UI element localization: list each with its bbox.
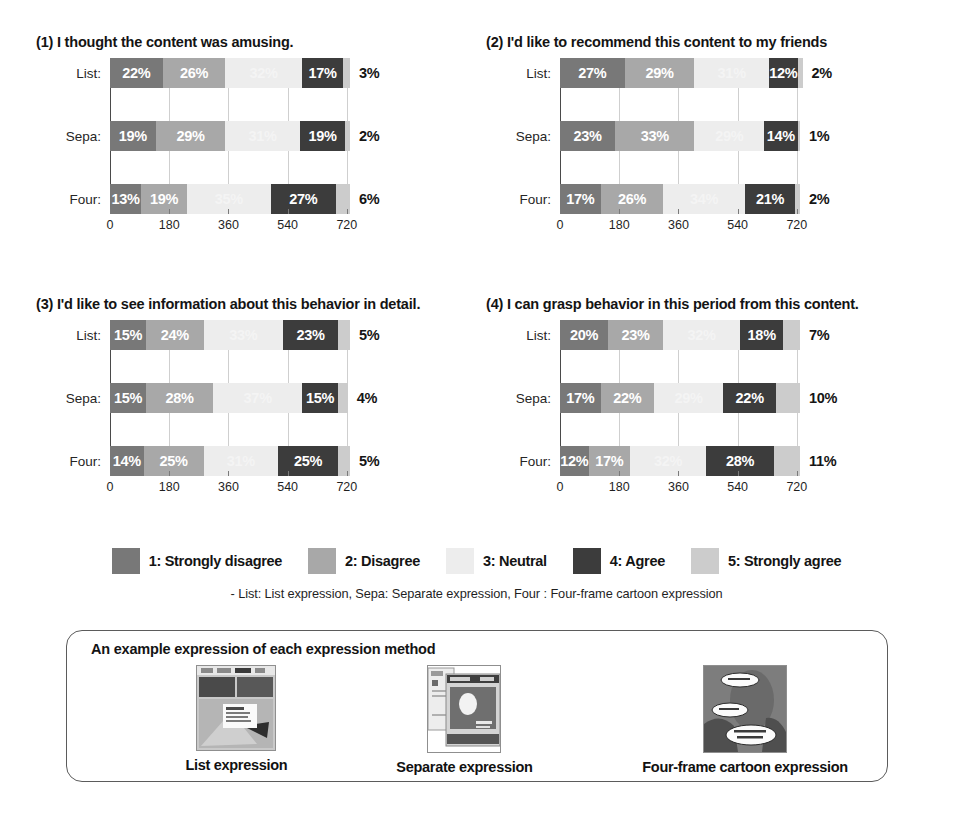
plot-area: List:22%26%32%17%3%Sepa:19%29%31%19%2%Fo…: [36, 58, 379, 236]
bar-segment-1: 15%: [110, 383, 146, 413]
stacked-bar: 17%22%29%22%: [560, 383, 800, 413]
row-label: Sepa:: [486, 391, 560, 406]
tick-label: 0: [557, 218, 564, 232]
bar-segment-4: 19%: [300, 121, 346, 151]
bar-outside-label: 2%: [800, 191, 829, 207]
bar-segment-2: 28%: [146, 383, 213, 413]
bar-segment-1: 23%: [560, 121, 615, 151]
bar-row: Four:12%17%32%28%11%: [486, 446, 859, 476]
bar-segment-2: 29%: [156, 121, 226, 151]
legend-item: 1: Strongly disagree: [112, 548, 282, 574]
tick-mark: [619, 471, 620, 476]
bar-segment-5: [338, 446, 350, 476]
bar-segment-3: 32%: [663, 320, 740, 350]
bar-segment-3: 29%: [694, 121, 764, 151]
example-item: Separate expression: [356, 665, 574, 775]
x-axis-ticks: 0180360540720: [36, 214, 379, 236]
example-items: List expressionSeparate expressionFour-f…: [67, 665, 887, 775]
stacked-bar: 15%28%37%15%: [110, 383, 348, 413]
tick-label: 360: [668, 480, 689, 494]
legend-swatch-3: [446, 548, 474, 574]
bar-segment-5: [343, 58, 350, 88]
bar-row: List:15%24%33%23%5%: [36, 320, 420, 350]
list-expression-thumbnail: [196, 665, 276, 751]
bar-outside-label: 11%: [800, 453, 836, 469]
legend-label: 5: Strongly agree: [728, 553, 841, 569]
tick-mark: [738, 209, 739, 214]
bar-row: List:27%29%31%12%2%: [486, 58, 832, 88]
bar-segment-1: 17%: [560, 184, 601, 214]
bar-segment-2: 26%: [163, 58, 225, 88]
row-label: List:: [36, 66, 110, 81]
row-label: List:: [486, 328, 560, 343]
tick-label: 180: [609, 480, 630, 494]
legend-label: 2: Disagree: [345, 553, 420, 569]
legend-item: 3: Neutral: [446, 548, 547, 574]
bar-segment-2: 26%: [601, 184, 663, 214]
bar-outside-label: 1%: [800, 128, 829, 144]
bar-segment-5: [776, 383, 800, 413]
tick-mark: [678, 471, 679, 476]
bar-segment-3: 37%: [213, 383, 302, 413]
legend-note: - List: List expression, Sepa: Separate …: [0, 586, 953, 601]
bar-segment-1: 20%: [560, 320, 608, 350]
bar-rows: List:15%24%33%23%5%Sepa:15%28%37%15%4%Fo…: [36, 320, 420, 476]
chart-title: (4) I can grasp behavior in this period …: [486, 296, 859, 312]
bar-outside-label: 6%: [350, 191, 379, 207]
legend-swatch-2: [308, 548, 336, 574]
bar-segment-3: 31%: [225, 121, 299, 151]
tick-mark: [560, 471, 561, 476]
bar-segment-4: 17%: [302, 58, 343, 88]
bar-segment-2: 23%: [608, 320, 663, 350]
tick-label: 540: [277, 480, 298, 494]
tick-mark: [110, 471, 111, 476]
chart-panel-4: (4) I can grasp behavior in this period …: [486, 296, 859, 498]
bar-outside-label: 2%: [803, 65, 832, 81]
separate-expression-thumbnail: [427, 665, 501, 753]
x-axis-ticks: 0180360540720: [486, 476, 859, 498]
stacked-bar: 15%24%33%23%: [110, 320, 350, 350]
tick-label: 0: [107, 480, 114, 494]
tick-label: 720: [336, 218, 357, 232]
bar-row: Sepa:19%29%31%19%2%: [36, 121, 379, 151]
tick-mark: [797, 209, 798, 214]
bar-segment-3: 31%: [694, 58, 768, 88]
bar-segment-3: 31%: [204, 446, 278, 476]
stacked-bar: 27%29%31%12%: [560, 58, 803, 88]
tick-mark: [619, 209, 620, 214]
bar-rows: List:22%26%32%17%3%Sepa:19%29%31%19%2%Fo…: [36, 58, 379, 214]
plot-area: List:27%29%31%12%2%Sepa:23%33%29%14%1%Fo…: [486, 58, 832, 236]
example-item: List expression: [137, 665, 336, 775]
bar-rows: List:27%29%31%12%2%Sepa:23%33%29%14%1%Fo…: [486, 58, 832, 214]
bar-segment-5: [798, 121, 800, 151]
bar-outside-label: 2%: [350, 128, 379, 144]
bar-segment-3: 32%: [225, 58, 302, 88]
tick-mark: [560, 209, 561, 214]
row-label: Sepa:: [36, 391, 110, 406]
tick-mark: [797, 471, 798, 476]
stacked-bar: 14%25%31%25%: [110, 446, 350, 476]
bar-segment-3: 34%: [663, 184, 745, 214]
tick-label: 720: [336, 480, 357, 494]
row-label: List:: [36, 328, 110, 343]
tick-mark: [347, 209, 348, 214]
bar-segment-2: 25%: [144, 446, 204, 476]
four-frame-cartoon-thumbnail: [703, 665, 787, 753]
bar-row: Sepa:23%33%29%14%1%: [486, 121, 832, 151]
tick-label: 0: [107, 218, 114, 232]
bar-segment-4: 15%: [302, 383, 338, 413]
tick-mark: [169, 471, 170, 476]
bar-segment-3: 32%: [630, 446, 707, 476]
stacked-bar: 19%29%31%19%: [110, 121, 350, 151]
x-axis-ticks: 0180360540720: [486, 214, 832, 236]
bar-segment-1: 13%: [110, 184, 141, 214]
tick-mark: [678, 209, 679, 214]
bar-segment-4: 21%: [745, 184, 795, 214]
row-label: Sepa:: [486, 129, 560, 144]
tick-mark: [228, 209, 229, 214]
bar-outside-label: 3%: [350, 65, 379, 81]
example-panel-title: An example expression of each expression…: [91, 641, 435, 657]
tick-mark: [347, 471, 348, 476]
example-caption: Four-frame cartoon expression: [642, 759, 848, 775]
bar-segment-2: 19%: [141, 184, 187, 214]
